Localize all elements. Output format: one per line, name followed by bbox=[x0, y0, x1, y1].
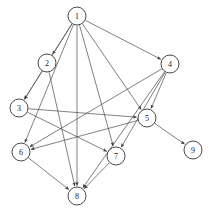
edge-5-to-9 bbox=[155, 123, 185, 144]
node-circle-8[interactable] bbox=[68, 187, 86, 205]
node-circle-6[interactable] bbox=[12, 143, 30, 161]
edge-4-to-6 bbox=[30, 69, 162, 147]
node-circle-1[interactable] bbox=[68, 7, 86, 25]
nodes-layer: 123456789 bbox=[10, 7, 202, 205]
diagram-canvas: 123456789 bbox=[0, 0, 209, 214]
node-circle-2[interactable] bbox=[38, 54, 56, 72]
graph-node-8[interactable]: 8 bbox=[68, 187, 86, 205]
edge-7-to-8 bbox=[84, 163, 109, 189]
edge-1-to-4 bbox=[85, 20, 160, 59]
edge-4-to-5 bbox=[151, 73, 166, 109]
graph-node-3[interactable]: 3 bbox=[10, 99, 28, 117]
graph-node-7[interactable]: 7 bbox=[107, 147, 125, 165]
graph-node-2[interactable]: 2 bbox=[38, 54, 56, 72]
graph-node-4[interactable]: 4 bbox=[161, 55, 179, 73]
edges-layer bbox=[25, 20, 185, 189]
edge-4-to-8 bbox=[83, 72, 164, 188]
edge-5-to-6 bbox=[31, 120, 138, 149]
node-circle-9[interactable] bbox=[184, 141, 202, 159]
edge-1-to-7 bbox=[80, 25, 114, 146]
edge-2-to-3 bbox=[25, 71, 42, 99]
node-circle-4[interactable] bbox=[161, 55, 179, 73]
edge-6-to-8 bbox=[28, 158, 68, 190]
graph-node-9[interactable]: 9 bbox=[184, 141, 202, 159]
graph-node-6[interactable]: 6 bbox=[12, 143, 30, 161]
node-circle-3[interactable] bbox=[10, 99, 28, 117]
graph-node-1[interactable]: 1 bbox=[68, 7, 86, 25]
edge-1-to-6 bbox=[25, 25, 73, 143]
node-circle-5[interactable] bbox=[138, 109, 156, 127]
directed-graph: 123456789 bbox=[0, 0, 209, 214]
node-circle-7[interactable] bbox=[107, 147, 125, 165]
graph-node-5[interactable]: 5 bbox=[138, 109, 156, 127]
